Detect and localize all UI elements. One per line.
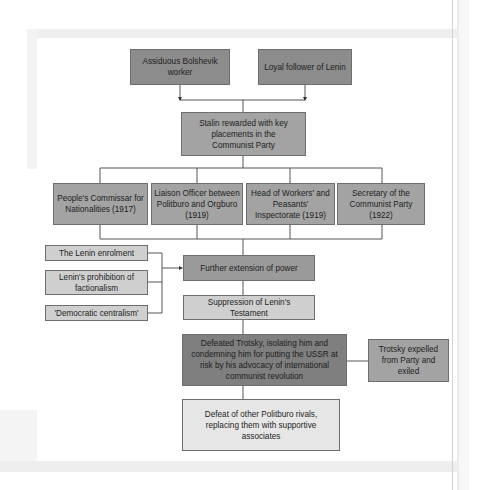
cause-box-bolshevik-worker: Assiduous Bolshevik worker (130, 49, 230, 85)
box-label: Head of Workers' and Peasants' Inspector… (249, 188, 332, 221)
position-box-inspectorate: Head of Workers' and Peasants' Inspector… (246, 183, 335, 225)
box-label: Secretary of the Communist Party (1922) (344, 188, 418, 221)
box-label: Defeated Trotsky, isolating him and cond… (185, 338, 344, 382)
box-label: Trotsky expelled from Party and exiled (372, 344, 445, 377)
position-box-commissar: People's Commissar for Nationalities (19… (53, 183, 148, 225)
box-label: Assiduous Bolshevik worker (133, 56, 227, 78)
defeat-rivals-box: Defeat of other Politburo rivals, replac… (182, 399, 340, 451)
box-label: The Lenin enrolment (59, 248, 134, 259)
box-label: Liaison Officer between Politburo and Or… (154, 188, 240, 221)
suppression-box: Suppression of Lenin's Testament (183, 295, 315, 320)
box-label: Suppression of Lenin's Testament (196, 297, 302, 319)
box-label: Further extension of power (200, 263, 297, 274)
factor-box-prohibition: Lenin's prohibition of factionalism (45, 270, 148, 295)
box-label: Defeat of other Politburo rivals, replac… (195, 409, 327, 442)
trotsky-exiled-box: Trotsky expelled from Party and exiled (368, 339, 449, 382)
position-box-secretary: Secretary of the Communist Party (1922) (337, 183, 425, 225)
factor-box-lenin-enrolment: The Lenin enrolment (45, 245, 148, 261)
box-label: People's Commissar for Nationalities (19… (56, 193, 145, 215)
extension-box: Further extension of power (183, 255, 315, 281)
position-box-liaison: Liaison Officer between Politburo and Or… (151, 183, 243, 225)
box-label: Loyal follower of Lenin (264, 62, 345, 73)
cause-box-loyal-follower: Loyal follower of Lenin (258, 49, 352, 85)
box-label: 'Democratic centralism' (54, 308, 138, 319)
box-label: Stalin rewarded with key placements in t… (190, 118, 297, 151)
factor-box-democratic-centralism: 'Democratic centralism' (45, 305, 148, 321)
box-label: Lenin's prohibition of factionalism (50, 272, 143, 294)
reward-box: Stalin rewarded with key placements in t… (181, 112, 306, 156)
defeat-trotsky-box: Defeated Trotsky, isolating him and cond… (182, 334, 347, 386)
